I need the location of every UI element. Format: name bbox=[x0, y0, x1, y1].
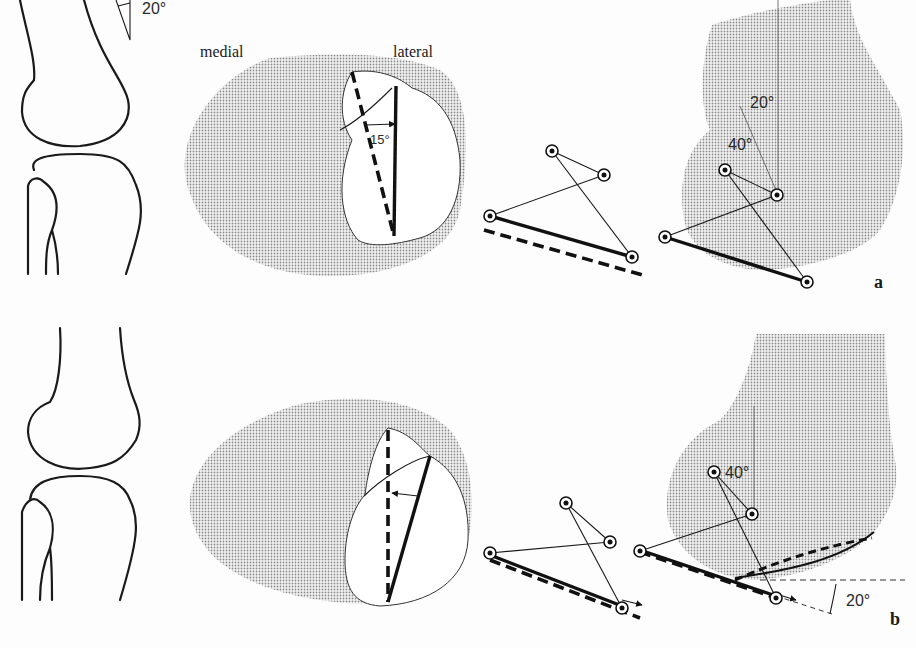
panel-label-b: b bbox=[890, 609, 900, 629]
pivot-joint bbox=[708, 466, 720, 478]
pivot-joint bbox=[616, 602, 628, 614]
femur-linkage-a: 20° 40° a bbox=[659, 0, 903, 292]
shank-angle-label: 40° bbox=[725, 464, 749, 481]
tibia-outline bbox=[30, 476, 136, 600]
pivot-joint bbox=[626, 251, 638, 263]
coupler-bar bbox=[490, 216, 632, 257]
fibula-outline bbox=[28, 179, 58, 274]
pivot-joint bbox=[746, 508, 758, 520]
femur-outline bbox=[20, 0, 129, 146]
pivot-joint bbox=[801, 276, 813, 288]
tilt-angle-arc bbox=[830, 584, 836, 614]
femur-silhouette-stippled bbox=[682, 0, 903, 270]
pivot-joint bbox=[560, 497, 572, 509]
pivot-joint bbox=[771, 189, 783, 201]
flexion-angle-wedge bbox=[116, 0, 130, 40]
pivot-joint bbox=[484, 547, 496, 559]
pivot-joint bbox=[546, 145, 558, 157]
pivot-joint bbox=[770, 592, 782, 604]
pivot-joint bbox=[484, 210, 496, 222]
linkage-diagram-a bbox=[484, 145, 646, 276]
lateral-label: lateral bbox=[393, 43, 434, 60]
panel-b: 40° 20° b bbox=[22, 328, 905, 629]
rotation-angle-label: 15° bbox=[370, 132, 390, 147]
femur-linkage-b: 40° 20° b bbox=[634, 334, 905, 629]
medial-label: medial bbox=[200, 43, 244, 60]
coupler-bar bbox=[490, 555, 622, 606]
pivot-joint bbox=[659, 231, 671, 243]
tilted-reference bbox=[776, 596, 832, 614]
panel-label-a: a bbox=[874, 272, 883, 292]
pivot-joint bbox=[598, 169, 610, 181]
knee-flexion-angle-label: 20° bbox=[142, 0, 166, 17]
knee-side-view-a: 20° bbox=[20, 0, 166, 274]
transverse-section-a: medial lateral 15° bbox=[185, 43, 466, 276]
femur-silhouette-stippled bbox=[667, 334, 896, 580]
tibia-outline bbox=[33, 154, 141, 274]
knee-side-view-b bbox=[22, 328, 140, 600]
pivot-joint bbox=[604, 536, 616, 548]
femur-outline bbox=[28, 328, 140, 469]
biomechanics-figure: 20° medial lateral 15° bbox=[0, 0, 916, 648]
figure-canvas: 20° medial lateral 15° bbox=[0, 0, 916, 648]
pivot-joint bbox=[719, 164, 731, 176]
transverse-section-b bbox=[190, 399, 472, 606]
rotated-axis-solid bbox=[394, 86, 396, 236]
shank-angle-label: 40° bbox=[728, 136, 752, 153]
pivot-joint bbox=[634, 545, 646, 557]
tilt-angle-label: 20° bbox=[846, 592, 870, 609]
thigh-angle-label: 20° bbox=[750, 94, 774, 111]
panel-a: 20° medial lateral 15° bbox=[20, 0, 903, 292]
fibula-outline bbox=[22, 499, 53, 600]
linkage-diagram-b bbox=[484, 497, 642, 618]
